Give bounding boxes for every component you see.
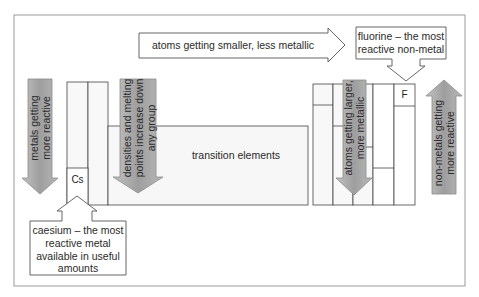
density-arrow-line-1: densities and melting (121, 79, 133, 178)
atoms-arrow-line-2: more metallic (354, 97, 366, 159)
s-block: Cs (67, 82, 108, 205)
top-arrow-label: atoms getting smaller, less metallic (152, 39, 314, 51)
fluorine-line-2: reactive non-metal (358, 43, 444, 55)
metals-arrow-line-1: metals getting (28, 95, 40, 161)
caesium-line-3: available in useful (36, 250, 119, 262)
caesium-line-4: amounts (58, 262, 98, 274)
group-13-column (313, 84, 333, 205)
metals-arrow-line-2: more reactive (40, 96, 52, 160)
density-arrow-line-3: any group (145, 104, 157, 151)
transition-label: transition elements (192, 149, 280, 161)
caesium-line-2: reactive metal (45, 237, 110, 249)
caesium-line-1: caesium – the most (32, 224, 123, 236)
cs-symbol: Cs (71, 174, 83, 185)
diagram-canvas: Cs transition elements F atoms getting s… (0, 0, 479, 297)
density-arrow-line-2: points increase down (133, 79, 145, 178)
group-16-column (373, 84, 394, 205)
f-symbol: F (401, 89, 407, 100)
nonmetals-arrow-line-1: non-metals getting (432, 100, 444, 187)
fluorine-line-1: fluorine – the most (358, 30, 444, 42)
group-2-column (88, 82, 108, 205)
group-17-column (394, 84, 415, 205)
atoms-arrow-line-1: atoms getting larger, (342, 80, 354, 175)
nonmetals-arrow-line-2: more reactive (444, 111, 456, 175)
